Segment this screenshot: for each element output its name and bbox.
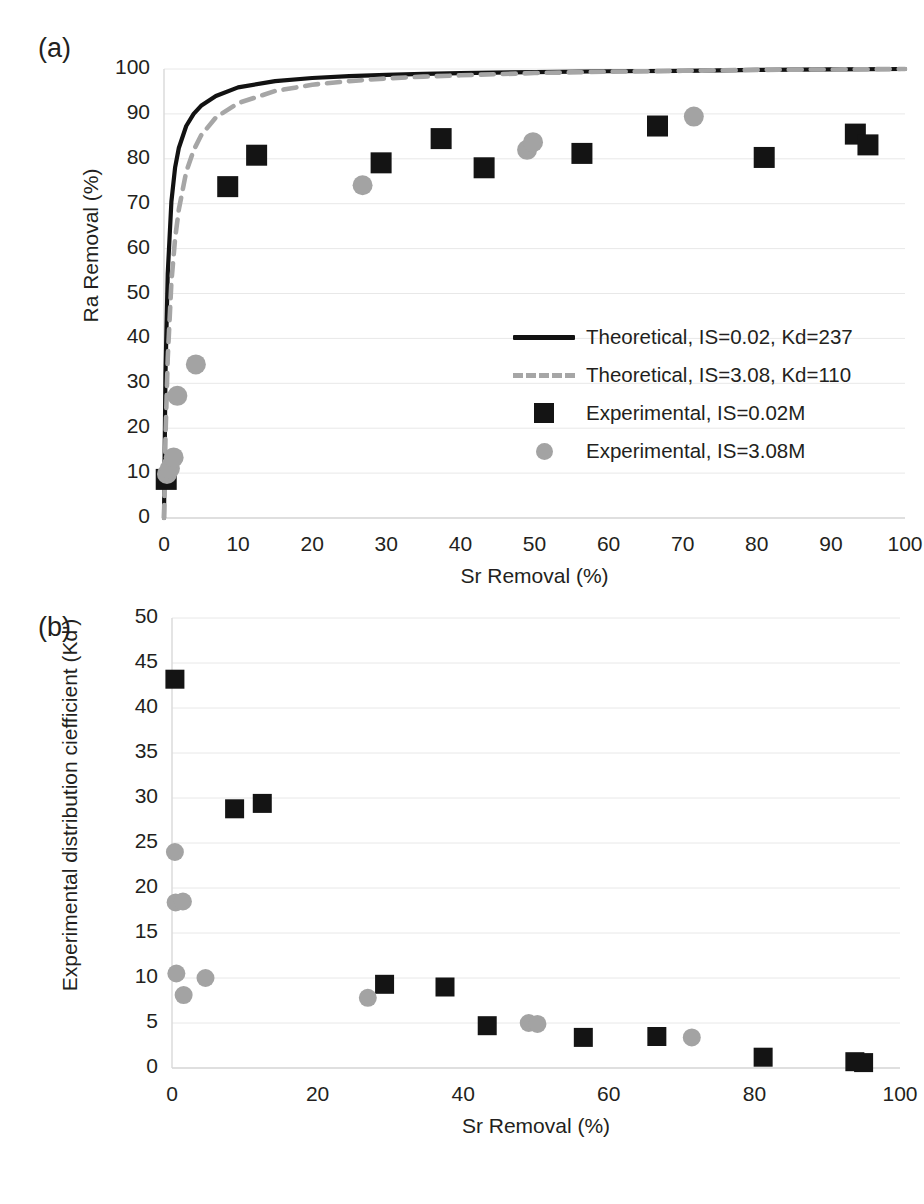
- x-tick-label: 100: [860, 1082, 924, 1106]
- data-point-marker: [165, 670, 184, 689]
- y-tick-label: 0: [100, 1054, 158, 1078]
- x-tick-label: 100: [865, 532, 924, 556]
- legend-item-experimental-308: Experimental, IS=3.08M: [508, 432, 853, 470]
- legend-label: Experimental, IS=3.08M: [580, 439, 805, 463]
- data-point-marker: [359, 989, 377, 1007]
- line-solid-icon: [508, 335, 580, 340]
- legend-item-theoretical-308: Theoretical, IS=3.08, Kd=110: [508, 356, 853, 394]
- data-point-marker: [166, 843, 184, 861]
- panel-b-yaxis-title: Experimental distribution ciefficient (K…: [58, 520, 82, 1090]
- data-point-marker: [196, 969, 214, 987]
- data-point-marker: [683, 1028, 701, 1046]
- panel-b-xaxis-title: Sr Removal (%): [386, 1114, 686, 1138]
- legend-item-experimental-002: Experimental, IS=0.02M: [508, 394, 853, 432]
- y-tick-label: 40: [100, 694, 158, 718]
- x-tick-label: 0: [124, 532, 204, 556]
- y-tick-label: 20: [100, 874, 158, 898]
- data-point-marker: [571, 143, 592, 164]
- x-tick-label: 30: [346, 532, 426, 556]
- legend-label: Theoretical, IS=0.02, Kd=237: [580, 325, 853, 349]
- y-tick-label: 5: [100, 1009, 158, 1033]
- data-point-marker: [431, 128, 452, 149]
- x-tick-label: 40: [420, 532, 500, 556]
- y-tick-label: 100: [92, 55, 150, 79]
- data-point-marker: [353, 175, 373, 195]
- x-tick-label: 20: [272, 532, 352, 556]
- y-tick-label: 0: [92, 504, 150, 528]
- data-point-marker: [647, 1027, 666, 1046]
- data-point-marker: [375, 975, 394, 994]
- data-point-marker: [647, 116, 668, 137]
- x-tick-label: 20: [278, 1082, 358, 1106]
- data-point-marker: [754, 1048, 773, 1067]
- data-point-marker: [684, 107, 704, 127]
- x-tick-label: 80: [717, 532, 797, 556]
- x-tick-label: 0: [132, 1082, 212, 1106]
- x-tick-label: 50: [495, 532, 575, 556]
- data-point-marker: [371, 152, 392, 173]
- data-point-marker: [854, 1053, 873, 1072]
- y-tick-label: 50: [92, 280, 150, 304]
- y-tick-label: 15: [100, 919, 158, 943]
- y-tick-label: 10: [92, 459, 150, 483]
- y-tick-label: 30: [100, 784, 158, 808]
- data-point-marker: [523, 132, 543, 152]
- data-point-marker: [186, 354, 206, 374]
- legend-label: Experimental, IS=0.02M: [580, 401, 805, 425]
- data-point-marker: [436, 978, 455, 997]
- y-tick-label: 90: [92, 100, 150, 124]
- data-point-marker: [474, 157, 495, 178]
- y-tick-label: 30: [92, 369, 150, 393]
- legend-label: Theoretical, IS=3.08, Kd=110: [580, 363, 851, 387]
- data-point-marker: [528, 1015, 546, 1033]
- y-tick-label: 60: [92, 235, 150, 259]
- panel-b: (b) IS=0.02M IS=3.08M Sr Removal (%) Exp…: [0, 590, 924, 1204]
- figure-container: (a) Theoretical, IS=0.02, Kd=237 Theoret…: [0, 0, 924, 1204]
- panel-a-yaxis-title: Ra Removal (%): [79, 0, 103, 530]
- data-point-marker: [175, 986, 193, 1004]
- data-point-marker: [857, 134, 878, 155]
- x-tick-label: 40: [423, 1082, 503, 1106]
- data-point-marker: [754, 147, 775, 168]
- data-point-marker: [164, 447, 184, 467]
- legend-item-theoretical-002: Theoretical, IS=0.02, Kd=237: [508, 318, 853, 356]
- y-tick-label: 70: [92, 190, 150, 214]
- y-tick-label: 45: [100, 649, 158, 673]
- x-tick-label: 60: [569, 1082, 649, 1106]
- square-marker-icon: [508, 403, 580, 423]
- y-tick-label: 80: [92, 145, 150, 169]
- data-point-marker: [253, 794, 272, 813]
- data-point-marker: [167, 386, 187, 406]
- panel-a-xaxis-title: Sr Removal (%): [385, 564, 685, 588]
- y-tick-label: 10: [100, 964, 158, 988]
- circle-marker-icon: [508, 443, 580, 460]
- y-tick-label: 20: [92, 414, 150, 438]
- data-point-marker: [174, 893, 192, 911]
- data-point-marker: [478, 1016, 497, 1035]
- y-tick-label: 40: [92, 324, 150, 348]
- x-tick-label: 70: [643, 532, 723, 556]
- data-point-marker: [225, 799, 244, 818]
- y-tick-label: 35: [100, 739, 158, 763]
- line-dashed-icon: [508, 373, 580, 378]
- x-tick-label: 80: [714, 1082, 794, 1106]
- data-point-marker: [217, 176, 238, 197]
- data-point-marker: [167, 965, 185, 983]
- data-point-marker: [574, 1028, 593, 1047]
- panel-a: (a) Theoretical, IS=0.02, Kd=237 Theoret…: [0, 0, 924, 600]
- y-tick-label: 50: [100, 604, 158, 628]
- x-tick-label: 60: [569, 532, 649, 556]
- x-tick-label: 10: [198, 532, 278, 556]
- panel-a-legend: Theoretical, IS=0.02, Kd=237 Theoretical…: [508, 318, 853, 470]
- y-tick-label: 25: [100, 829, 158, 853]
- data-point-marker: [246, 145, 267, 166]
- x-tick-label: 90: [791, 532, 871, 556]
